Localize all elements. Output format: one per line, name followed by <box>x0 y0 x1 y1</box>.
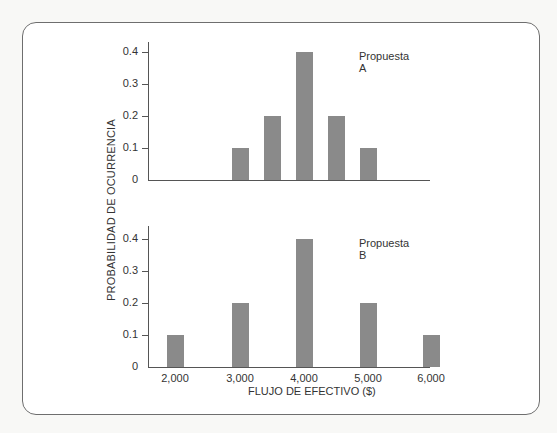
x-tick-label: 5,000 <box>343 372 393 384</box>
y-tick <box>142 52 148 53</box>
y-axis-b <box>148 226 149 368</box>
y-tick-label: 0.2 <box>108 296 138 308</box>
y-tick-label: 0.4 <box>108 45 138 57</box>
chart-frame <box>22 22 540 415</box>
y-tick-label: 0.2 <box>108 109 138 121</box>
x-tick-label: 2,000 <box>150 372 200 384</box>
bar-a-4500 <box>328 116 345 180</box>
x-axis-label: FLUJO DE EFECTIVO ($) <box>248 385 376 397</box>
y-tick-label: 0.1 <box>108 141 138 153</box>
y-tick <box>142 84 148 85</box>
bar-b-4000 <box>296 239 313 367</box>
bar-a-3500 <box>264 116 281 180</box>
y-tick-label: 0.3 <box>108 77 138 89</box>
y-tick-label: 0 <box>108 360 138 372</box>
y-tick-label: 0.4 <box>108 232 138 244</box>
y-tick-label: 0.3 <box>108 264 138 276</box>
y-tick <box>142 116 148 117</box>
bar-b-5000 <box>360 303 377 367</box>
y-axis-a <box>148 42 149 181</box>
y-tick <box>142 335 148 336</box>
x-tick-label: 3,000 <box>215 372 265 384</box>
panel-a-title: Propuesta A <box>359 50 409 74</box>
bar-b-2000 <box>167 335 184 367</box>
x-axis-b <box>148 367 430 368</box>
bar-b-3000 <box>232 303 249 367</box>
x-axis-a <box>148 180 430 181</box>
x-tick-label: 4,000 <box>279 372 329 384</box>
bar-a-4000 <box>296 52 313 180</box>
y-tick <box>142 303 148 304</box>
panel-b-title: Propuesta B <box>359 237 409 261</box>
y-tick-label: 0 <box>108 173 138 185</box>
bar-b-6000 <box>423 335 440 367</box>
y-tick <box>142 239 148 240</box>
bar-a-3000 <box>232 148 249 180</box>
x-tick-label: 6,000 <box>406 372 456 384</box>
y-tick <box>142 271 148 272</box>
y-tick-label: 0.1 <box>108 328 138 340</box>
y-tick <box>142 148 148 149</box>
bar-a-5000 <box>360 148 377 180</box>
